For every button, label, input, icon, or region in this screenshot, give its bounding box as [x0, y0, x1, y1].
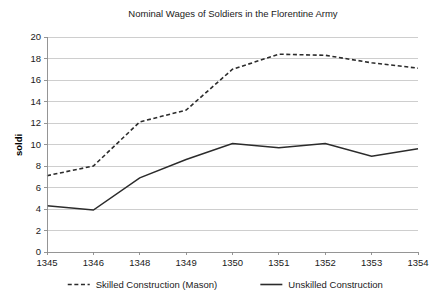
- y-tick-label: 14: [30, 96, 41, 107]
- y-tick-label: 8: [36, 160, 41, 171]
- x-tick-label: 1345: [36, 257, 57, 268]
- x-tick-label: 1350: [222, 257, 243, 268]
- x-tick-label: 1351: [268, 257, 289, 268]
- x-tick-label: 1346: [83, 257, 104, 268]
- y-tick-label: 12: [30, 117, 41, 128]
- y-tick-label: 20: [30, 31, 41, 42]
- y-tick-label: 6: [36, 182, 41, 193]
- chart-canvas: Nominal Wages of Soldiers in the Florent…: [0, 0, 430, 301]
- chart-figure: Nominal Wages of Soldiers in the Florent…: [0, 0, 430, 301]
- legend-label: Skilled Construction (Mason): [96, 279, 217, 290]
- y-axis-title: soldi: [13, 134, 24, 156]
- y-tick-label: 10: [30, 139, 41, 150]
- chart-title: Nominal Wages of Soldiers in the Florent…: [128, 8, 338, 19]
- x-tick-label: 1354: [407, 257, 428, 268]
- x-tick-label: 1352: [315, 257, 336, 268]
- x-tick-label: 1349: [176, 257, 197, 268]
- y-tick-label: 2: [36, 225, 41, 236]
- x-tick-label: 1348: [129, 257, 150, 268]
- y-tick-label: 4: [36, 203, 41, 214]
- y-tick-label: 16: [30, 74, 41, 85]
- y-tick-label: 18: [30, 53, 41, 64]
- legend-label: Unskilled Construction: [288, 279, 383, 290]
- x-tick-label: 1353: [361, 257, 382, 268]
- y-tick-label: 0: [36, 246, 41, 257]
